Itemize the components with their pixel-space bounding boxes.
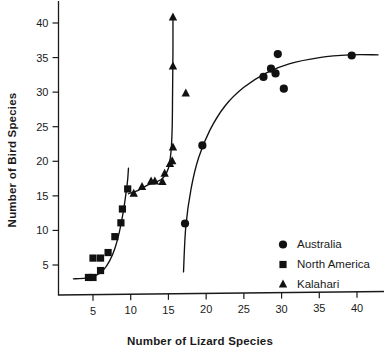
data-point-north-america <box>119 205 126 212</box>
y-tick-label: 20 <box>36 155 48 167</box>
legend-marker-north-america <box>279 261 286 268</box>
y-tick-label: 30 <box>36 86 48 98</box>
y-tick-label: 25 <box>36 121 48 133</box>
x-tick-label: 20 <box>200 303 212 315</box>
y-tick-label: 5 <box>42 259 48 271</box>
x-tick-label: 35 <box>313 302 325 314</box>
data-point-kalahari <box>168 156 176 164</box>
legend-marker-kalahari <box>279 280 287 288</box>
legend-label-kalahari: Kalahari <box>297 278 339 290</box>
y-tick-label: 35 <box>36 52 48 64</box>
y-axis-title: Number of Bird Species <box>6 93 18 228</box>
data-point-kalahari <box>169 143 177 151</box>
data-point-australia <box>348 51 356 59</box>
legend-label-australia: Australia <box>297 238 342 250</box>
data-point-kalahari <box>169 13 177 21</box>
legend-label-north-america: North America <box>297 258 370 270</box>
fit-curve-kalahari <box>128 16 173 194</box>
data-point-australia <box>181 219 189 227</box>
x-axis-title: Number of Lizard Species <box>127 335 273 347</box>
data-point-australia <box>280 85 288 93</box>
data-point-australia <box>259 73 267 81</box>
data-point-north-america <box>97 267 104 274</box>
x-tick-label: 30 <box>275 303 287 315</box>
data-point-kalahari <box>182 89 190 97</box>
data-point-north-america <box>117 219 124 226</box>
y-tick-label: 15 <box>36 190 48 202</box>
data-point-kalahari <box>169 62 177 70</box>
x-tick-label: 5 <box>90 305 96 317</box>
data-point-north-america <box>89 254 96 261</box>
data-point-north-america <box>89 274 96 281</box>
y-tick-label: 10 <box>36 224 48 236</box>
scatter-plot-figure: 510152025303540510152025303540 Number of… <box>0 0 390 358</box>
y-tick-label: 40 <box>36 17 48 29</box>
x-tick-label: 10 <box>125 304 137 316</box>
data-point-north-america <box>124 185 131 192</box>
data-point-australia <box>274 50 282 58</box>
data-point-north-america <box>111 233 118 240</box>
x-tick-label: 15 <box>162 304 174 316</box>
x-tick-label: 40 <box>351 302 363 314</box>
data-point-north-america <box>104 249 111 256</box>
data-point-australia <box>198 141 206 149</box>
legend: AustraliaNorth AmericaKalahari <box>279 238 371 290</box>
plot-canvas: 510152025303540510152025303540 Number of… <box>0 0 390 358</box>
legend-marker-australia <box>279 240 287 248</box>
data-point-australia <box>271 69 279 77</box>
x-tick-label: 25 <box>238 303 250 315</box>
data-point-north-america <box>97 254 104 261</box>
